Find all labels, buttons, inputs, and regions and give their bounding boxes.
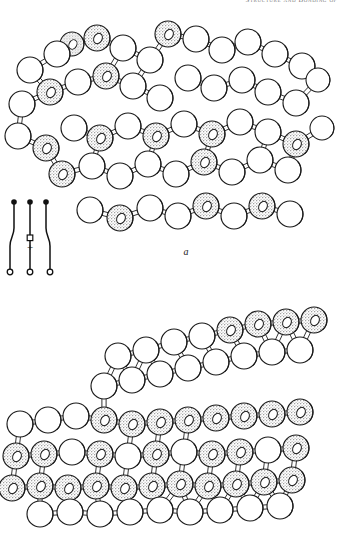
- atom-open: [65, 69, 91, 95]
- panel-label-a: a: [176, 246, 196, 257]
- atom-stippled: [191, 149, 217, 175]
- atom-stippled: [0, 475, 25, 501]
- atom-open: [119, 367, 145, 393]
- atom-open: [147, 85, 173, 111]
- atom-open: [17, 57, 43, 83]
- atom-stippled: [167, 471, 193, 497]
- atom-stippled: [83, 473, 109, 499]
- atom-open: [63, 403, 89, 429]
- atom-open: [147, 361, 173, 387]
- atom-open: [9, 91, 35, 117]
- atom-open: [183, 26, 209, 52]
- atom-open: [135, 151, 161, 177]
- atom-open: [310, 116, 334, 140]
- atom-open: [61, 115, 87, 141]
- atom-open: [221, 203, 247, 229]
- atom-open: [77, 197, 103, 223]
- atom-stippled: [93, 63, 119, 89]
- atom-stippled: [195, 473, 221, 499]
- atom-stippled: [231, 403, 257, 429]
- atom-open: [207, 497, 233, 523]
- atom-stippled: [287, 399, 313, 425]
- atom-stippled: [283, 435, 309, 461]
- atom-stippled: [227, 439, 253, 465]
- atom-open: [171, 111, 197, 137]
- atom-stippled: [31, 441, 57, 467]
- atom-stippled: [91, 407, 117, 433]
- bond-orientation-symbol-a: +: [8, 198, 64, 276]
- atom-open: [171, 439, 197, 465]
- atom-open: [255, 437, 281, 463]
- atom-stippled: [84, 25, 110, 51]
- atom-open: [57, 499, 83, 525]
- structure-panel-a: + a: [0, 8, 343, 253]
- atom-open: [161, 329, 187, 355]
- atom-open: [247, 147, 273, 173]
- atom-stippled: [193, 193, 219, 219]
- atom-open: [110, 35, 136, 61]
- atom-open: [120, 73, 146, 99]
- atom-stippled: [49, 161, 75, 187]
- atom-stippled: [3, 443, 29, 469]
- atom-open: [175, 355, 201, 381]
- atom-open: [147, 497, 173, 523]
- atom-open: [5, 123, 31, 149]
- atom-open: [177, 499, 203, 525]
- atom-open: [175, 65, 201, 91]
- atom-open: [91, 373, 117, 399]
- figure-plate: Structure and Bonding of: [0, 0, 343, 533]
- atom-open: [105, 343, 131, 369]
- atom-open: [259, 339, 285, 365]
- atom-open: [306, 68, 330, 92]
- atom-open: [117, 499, 143, 525]
- atom-open: [229, 67, 255, 93]
- atom-stippled: [27, 473, 53, 499]
- atom-open: [209, 37, 235, 63]
- atom-open: [163, 161, 189, 187]
- atom-open: [287, 337, 313, 363]
- atom-stippled: [55, 475, 81, 501]
- atom-open: [277, 201, 303, 227]
- atom-stippled: [33, 135, 59, 161]
- atom-stippled: [259, 401, 285, 427]
- atom-open: [59, 439, 85, 465]
- atom-open: [115, 443, 141, 469]
- atom-open: [219, 159, 245, 185]
- atom-stippled: [199, 441, 225, 467]
- atom-open: [255, 79, 281, 105]
- structure-panel-b: − b: [0, 296, 343, 528]
- atom-open: [137, 47, 163, 73]
- atom-open: [203, 349, 229, 375]
- atom-stippled: [87, 125, 113, 151]
- atom-stippled: [199, 121, 225, 147]
- atom-stippled: [119, 411, 145, 437]
- atom-stippled: [175, 407, 201, 433]
- atom-stippled: [147, 409, 173, 435]
- atom-stippled: [279, 467, 305, 493]
- atom-stippled: [273, 309, 299, 335]
- atom-open: [283, 90, 309, 116]
- atom-open: [133, 337, 159, 363]
- atom-open: [115, 113, 141, 139]
- atom-open: [201, 75, 227, 101]
- atom-open: [262, 41, 288, 67]
- atom-open: [165, 203, 191, 229]
- crystal-model-b: [0, 296, 343, 528]
- atom-open: [27, 501, 53, 527]
- atom-open: [44, 41, 70, 67]
- atom-open: [227, 109, 253, 135]
- atom-stippled: [203, 405, 229, 431]
- atom-open: [231, 343, 257, 369]
- atom-stippled: [301, 307, 327, 333]
- atom-stippled: [249, 193, 275, 219]
- atom-stippled: [111, 475, 137, 501]
- atom-stippled: [143, 123, 169, 149]
- atom-open: [275, 157, 301, 183]
- atom-open: [255, 119, 281, 145]
- atom-open: [79, 153, 105, 179]
- atom-stippled: [143, 441, 169, 467]
- atom-open: [137, 195, 163, 221]
- atom-open: [107, 163, 133, 189]
- atom-stippled: [139, 473, 165, 499]
- running-head: Structure and Bonding of: [245, 0, 337, 3]
